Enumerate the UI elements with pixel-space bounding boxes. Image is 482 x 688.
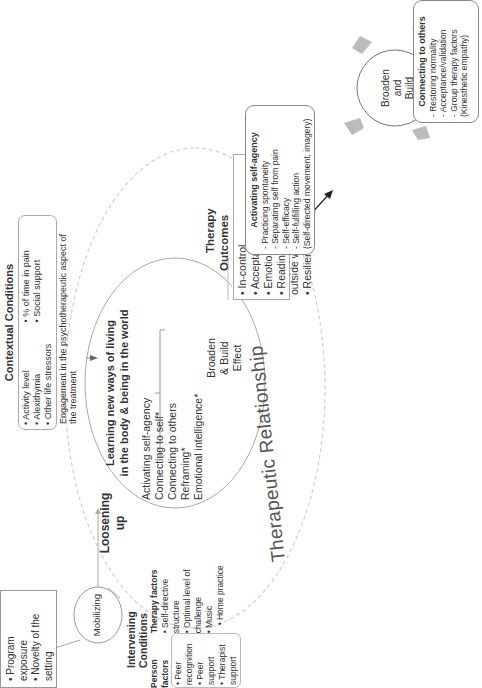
box-connecting-to-others: Connecting to others Restoring normality…	[413, 0, 479, 123]
diagram-canvas: Therapy Outcomes In-control Acceptance* …	[0, 0, 482, 688]
box-activating-self-agency: Activating self-agency Practicing sponta…	[245, 105, 315, 255]
broaden-build-center: Broaden and Build	[380, 53, 416, 123]
